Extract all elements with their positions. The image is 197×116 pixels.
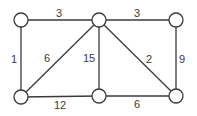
edge-D-E [21, 96, 99, 97]
graph-node-C [169, 13, 183, 27]
edge-weight-label: 12 [54, 99, 66, 111]
edge-weight-label: 3 [56, 7, 62, 19]
edge-weight-label: 3 [134, 7, 140, 19]
edge-weight-label: 1 [11, 53, 17, 65]
edge-weight-label: 6 [134, 98, 140, 110]
graph-node-F [169, 89, 183, 103]
edge-weight-label: 2 [146, 53, 152, 65]
edge-B-F [99, 20, 176, 96]
edge-weight-label: 15 [83, 52, 95, 64]
graph-node-B [92, 13, 106, 27]
graph-diagram: 33161529126 [0, 0, 197, 116]
edge-weight-label: 6 [44, 52, 50, 64]
graph-node-D [14, 90, 28, 104]
edge-weight-label: 9 [179, 53, 185, 65]
graph-node-A [14, 13, 28, 27]
graph-node-E [92, 89, 106, 103]
